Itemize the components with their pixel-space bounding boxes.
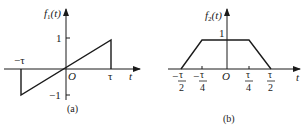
svg-text:2: 2 (179, 82, 184, 93)
svg-text:2: 2 (268, 82, 273, 93)
svg-text:τ: τ (246, 69, 250, 80)
xlabel-a: t (129, 70, 133, 82)
caption-b: (b) (223, 113, 235, 125)
svg-text:−: − (193, 70, 199, 82)
xlabel-b: t (296, 71, 300, 83)
x-tick-label-neg-tau: −τ (14, 54, 25, 66)
x-tick-label-neg-tau4: − τ 4 (193, 69, 207, 93)
svg-text:τ: τ (200, 69, 204, 80)
caption-a: (a) (67, 103, 78, 115)
origin-label-a: O (68, 70, 76, 82)
figure-a: f1(t) 1 −1 −τ τ O t (a) (4, 7, 140, 115)
origin-label-b: O (222, 70, 230, 82)
x-tick-label-tau: τ (108, 70, 113, 82)
svg-text:4: 4 (246, 82, 251, 93)
x-tick-label-tau4: τ 4 (245, 69, 253, 93)
x-tick-label-neg-tau2: − τ 2 (172, 69, 186, 93)
svg-text:4: 4 (200, 82, 205, 93)
y-tick-label-1-b: 1 (219, 27, 225, 39)
y-tick-label-neg1: −1 (49, 89, 61, 101)
signal-diagrams: f1(t) 1 −1 −τ τ O t (a) f2(t) 1 O t − τ … (0, 0, 306, 128)
svg-text:τ: τ (268, 69, 272, 80)
x-tick-label-tau2: τ 2 (267, 69, 275, 93)
figure-b: f2(t) 1 O t − τ 2 − τ 4 τ 4 τ 2 (b) (168, 9, 300, 125)
trapezoid-curve (181, 40, 271, 69)
ylabel-a: f1(t) (44, 7, 61, 21)
y-tick-label-1: 1 (56, 32, 62, 44)
svg-text:τ: τ (179, 69, 183, 80)
ylabel-b: f2(t) (205, 9, 222, 23)
svg-text:−: − (172, 70, 178, 82)
